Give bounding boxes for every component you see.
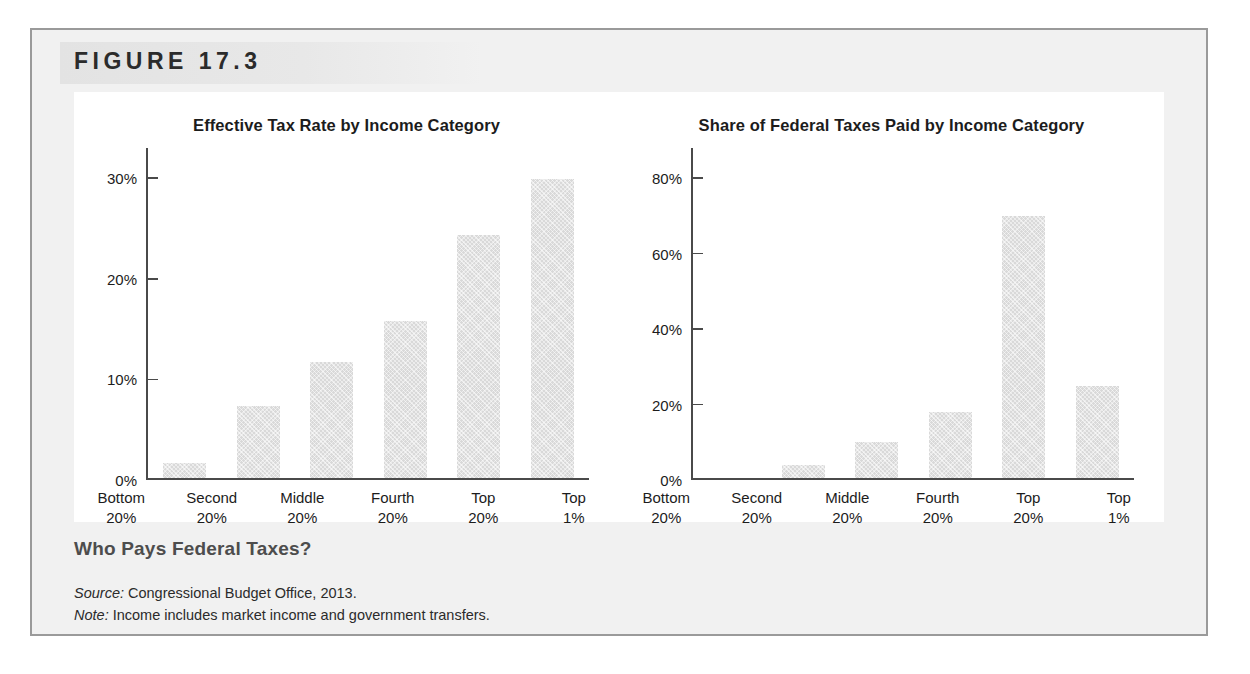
chart-effective-tax-rate: Effective Tax Rate by Income Category 0%… (74, 92, 619, 522)
bar-right-1 (782, 465, 825, 478)
x-label-right-5: Top1% (1074, 488, 1165, 528)
charts-row: Effective Tax Rate by Income Category 0%… (74, 92, 1164, 522)
x-label-right-4: Top20% (983, 488, 1074, 528)
bar-slot (1061, 148, 1135, 478)
x-label-line: 20% (348, 508, 439, 528)
source-text: Congressional Budget Office, 2013. (124, 585, 357, 601)
note-lead: Note: (74, 607, 109, 623)
chart-share-of-federal-taxes: Share of Federal Taxes Paid by Income Ca… (619, 92, 1164, 522)
bar-left-2 (310, 362, 353, 479)
bar-slot (369, 148, 443, 478)
x-label-left-1: Second20% (167, 488, 258, 528)
x-label-line: Top (438, 488, 529, 508)
x-label-line: 20% (257, 508, 348, 528)
x-label-left-5: Top1% (529, 488, 620, 528)
bar-right-3 (929, 412, 972, 478)
bar-slot (987, 148, 1061, 478)
bar-slot (442, 148, 516, 478)
figure-number-label: FIGURE 17.3 (74, 48, 262, 75)
x-label-line: 20% (76, 508, 167, 528)
x-axis-labels-left: Bottom20%Second20%Middle20%Fourth20%Top2… (76, 488, 619, 528)
bar-slot (148, 148, 222, 478)
bar-left-5 (531, 179, 574, 478)
chart-title-right: Share of Federal Taxes Paid by Income Ca… (619, 116, 1164, 135)
bar-right-2 (855, 442, 898, 478)
y-tick-label: 0% (115, 473, 137, 488)
x-label-right-0: Bottom20% (621, 488, 712, 528)
figure-caption: Who Pays Federal Taxes? (74, 538, 312, 560)
x-label-line: Middle (257, 488, 348, 508)
x-axis-line-right (691, 478, 1134, 480)
x-label-line: Second (167, 488, 258, 508)
x-label-line: Middle (802, 488, 893, 508)
bar-series-right (693, 148, 1134, 478)
x-label-line: 20% (167, 508, 258, 528)
bar-left-0 (163, 463, 206, 478)
bar-slot (840, 148, 914, 478)
y-tick-label: 30% (107, 171, 137, 186)
y-tick-label: 40% (652, 322, 682, 337)
bar-left-4 (457, 235, 500, 478)
bar-left-3 (384, 321, 427, 478)
x-label-line: Second (712, 488, 803, 508)
x-label-line: Fourth (893, 488, 984, 508)
y-tick-label: 60% (652, 246, 682, 261)
x-label-line: Top (1074, 488, 1165, 508)
x-label-line: 20% (621, 508, 712, 528)
x-label-line: Top (529, 488, 620, 508)
x-label-line: 1% (1074, 508, 1165, 528)
x-label-line: Top (983, 488, 1074, 508)
x-axis-labels-right: Bottom20%Second20%Middle20%Fourth20%Top2… (621, 488, 1164, 528)
x-label-right-1: Second20% (712, 488, 803, 528)
source-lead: Source: (74, 585, 124, 601)
x-axis-line-left (146, 478, 589, 480)
bar-series-left (148, 148, 589, 478)
x-label-line: 1% (529, 508, 620, 528)
charts-panel: Effective Tax Rate by Income Category 0%… (74, 92, 1164, 522)
figure-notes: Source: Congressional Budget Office, 201… (74, 582, 490, 627)
chart-title-left: Effective Tax Rate by Income Category (74, 116, 619, 135)
x-label-line: 20% (438, 508, 529, 528)
bar-slot (914, 148, 988, 478)
source-line: Source: Congressional Budget Office, 201… (74, 582, 490, 604)
x-label-line: Bottom (621, 488, 712, 508)
note-text: Income includes market income and govern… (109, 607, 490, 623)
bar-right-4 (1002, 216, 1045, 478)
x-label-right-2: Middle20% (802, 488, 893, 528)
x-label-left-0: Bottom20% (76, 488, 167, 528)
y-tick-label: 0% (660, 473, 682, 488)
x-label-left-3: Fourth20% (348, 488, 439, 528)
x-label-left-4: Top20% (438, 488, 529, 528)
y-tick-label: 80% (652, 171, 682, 186)
plot-area-right: 0%20%40%60%80% (691, 148, 1134, 480)
x-label-line: 20% (802, 508, 893, 528)
x-label-left-2: Middle20% (257, 488, 348, 528)
note-line: Note: Income includes market income and … (74, 604, 490, 626)
bar-slot (516, 148, 590, 478)
y-tick-label: 20% (107, 271, 137, 286)
bar-slot (767, 148, 841, 478)
y-tick-label: 20% (652, 397, 682, 412)
bar-slot (222, 148, 296, 478)
bar-left-1 (237, 406, 280, 478)
bar-right-5 (1076, 386, 1119, 478)
x-label-line: 20% (712, 508, 803, 528)
y-tick-label: 10% (107, 372, 137, 387)
bar-slot (693, 148, 767, 478)
x-label-line: Fourth (348, 488, 439, 508)
plot-area-left: 0%10%20%30% (146, 148, 589, 480)
x-label-line: 20% (893, 508, 984, 528)
figure-frame: FIGURE 17.3 Effective Tax Rate by Income… (30, 28, 1208, 636)
bar-slot (295, 148, 369, 478)
x-label-right-3: Fourth20% (893, 488, 984, 528)
x-label-line: 20% (983, 508, 1074, 528)
x-label-line: Bottom (76, 488, 167, 508)
